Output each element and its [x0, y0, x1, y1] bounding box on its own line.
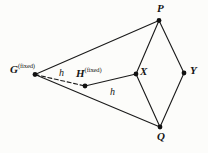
- vertex-label-Q: Q: [157, 131, 165, 142]
- vertex-label-G: G(fixed): [10, 63, 35, 75]
- figure-canvas: [0, 0, 208, 153]
- vertex-label-P-text: P: [157, 2, 164, 14]
- vertex-label-Y: Y: [190, 65, 197, 76]
- vertex-label-Y-text: Y: [190, 64, 197, 76]
- edge-X-Q: [136, 74, 160, 127]
- vertex-label-Q-text: Q: [157, 130, 165, 142]
- edge-Y-Q: [160, 73, 184, 127]
- vertex-label-G-superscript: (fixed): [18, 62, 35, 69]
- vertex-dot-H: [83, 84, 88, 89]
- vertex-dot-P: [157, 18, 162, 23]
- edge-P-Y: [159, 21, 184, 74]
- segment-label-h-GH: h: [59, 68, 64, 78]
- geometry-figure: P Q X Y G(fixed) H(fixed) h h: [0, 0, 208, 153]
- segment-label-h-HX: h: [110, 87, 115, 97]
- vertex-dot-Y: [182, 71, 187, 76]
- vertex-label-X: X: [140, 66, 147, 77]
- edge-group: [35, 21, 184, 128]
- vertex-label-X-text: X: [140, 65, 147, 77]
- vertex-dot-group: [33, 18, 187, 129]
- vertex-label-G-text: G: [10, 63, 18, 75]
- vertex-dot-X: [134, 72, 139, 77]
- vertex-label-H: H(fixed): [76, 67, 102, 79]
- vertex-label-H-superscript: (fixed): [85, 66, 102, 73]
- edge-G-Q: [35, 75, 160, 128]
- vertex-label-P: P: [157, 3, 164, 14]
- vertex-dot-Q: [158, 125, 163, 130]
- vertex-label-H-text: H: [76, 67, 85, 79]
